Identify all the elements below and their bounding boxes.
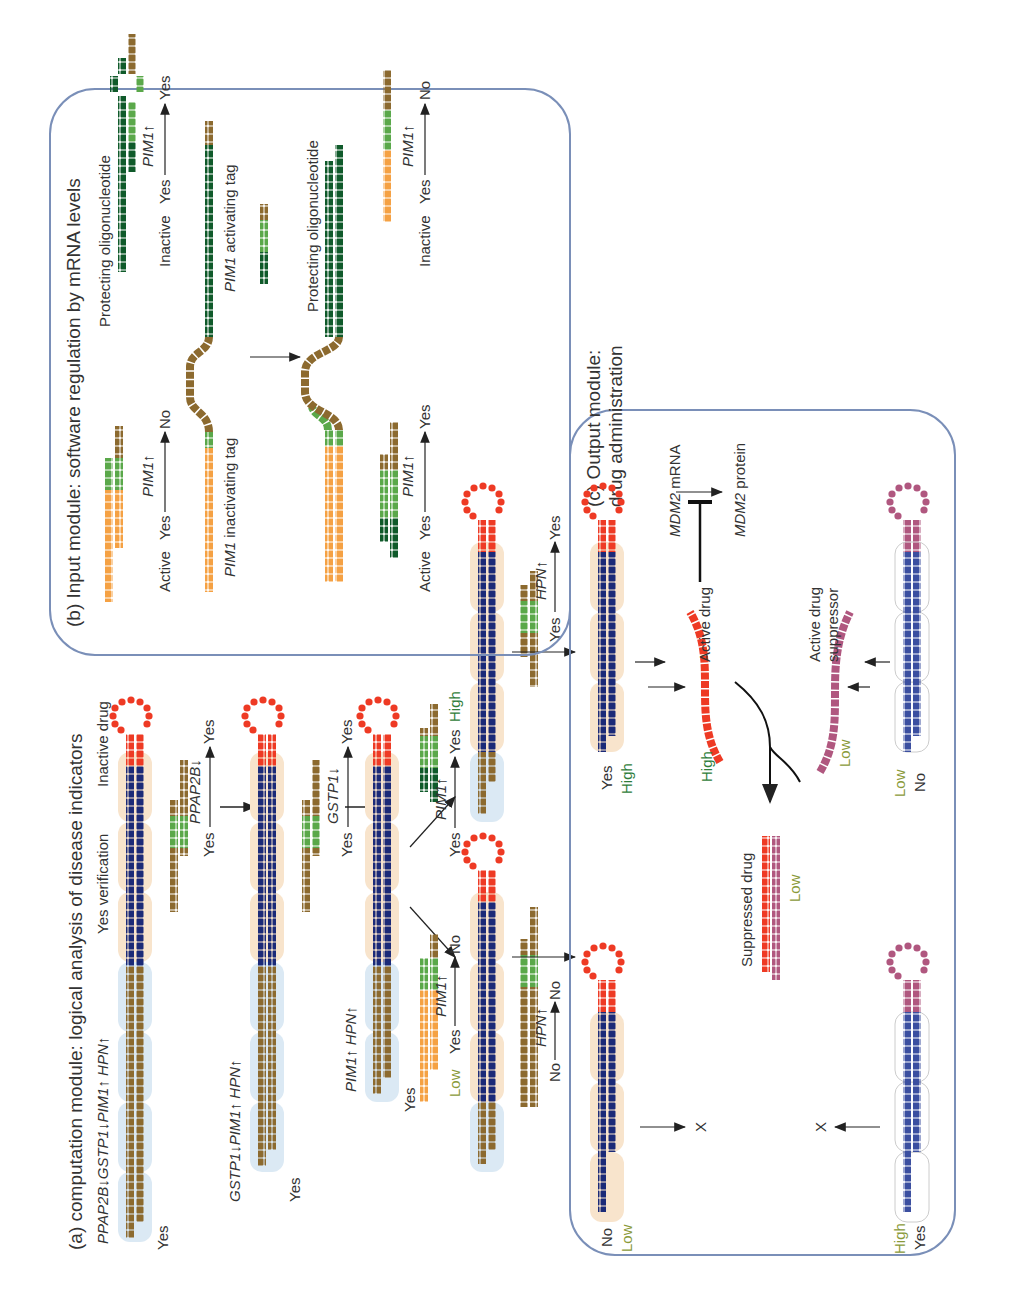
suppressor-label-1: Active drug [806, 587, 823, 662]
panel-a-title: (a) computation module: logical analysis… [65, 734, 86, 1250]
mdm2-mrna-rest: mRNA [666, 444, 683, 492]
b-protecting-1: Protecting oligonucleotide [96, 155, 113, 327]
suppressor-gate-yes [886, 942, 929, 1222]
c-left-bottom-level: Low [618, 1224, 635, 1252]
b-active1-to: No [156, 410, 173, 429]
b-active2-gene: PIM1↑ [399, 454, 416, 497]
b-active2-from: Yes [416, 516, 433, 540]
mdm2-protein-label: MDM2 protein [731, 443, 748, 537]
branch-low-gene: PIM1↑ [432, 974, 449, 1017]
step2-trans-to: Yes [338, 720, 355, 744]
step2-state: Yes [286, 1178, 303, 1202]
step3-state: Yes [401, 1088, 418, 1112]
activating-tag-gene: PIM1 [221, 257, 238, 292]
step4-high-gene: HPN↑ [532, 561, 549, 600]
small-free-strand [260, 204, 268, 284]
suppressor-label-2: suppressor [824, 588, 841, 662]
b-active1-state: Active [156, 551, 173, 592]
output-gate-yes [581, 482, 624, 752]
mdm2-protein-rest: protein [731, 443, 748, 493]
gstp1-input-strands [302, 760, 320, 912]
step1-state: Yes [154, 1226, 171, 1250]
b-inactive2-to: No [416, 81, 433, 100]
branch-high-from: Yes [446, 833, 463, 857]
inactivating-tag-gene: PIM1 [221, 542, 238, 577]
active-strand-2 [380, 422, 398, 558]
step1-trans-to: Yes [200, 720, 217, 744]
b-active2-to: Yes [416, 405, 433, 429]
active-drug-label: Active drug [696, 587, 713, 662]
b-protecting-2: Protecting oligonucleotide [304, 140, 321, 312]
converge-curve-bottom [770, 747, 800, 782]
step3-genes: PIM1↑ HPN↑ [342, 1006, 359, 1092]
c-left-top-state: Yes [598, 766, 615, 790]
b-inactive1-gene: PIM1↑ [139, 124, 156, 167]
step1-trans-gene: PPAP2B↓ [186, 759, 203, 824]
suppressor-level: Low [836, 739, 853, 767]
step1-trans-from: Yes [200, 833, 217, 857]
activating-tag-rest: activating tag [221, 164, 238, 257]
suppressor-gate-no [886, 482, 929, 752]
branch-low-from: Yes [446, 1030, 463, 1054]
active-drug-level: High [698, 751, 715, 782]
gate-step4-high [461, 482, 504, 822]
b-activating-tag: PIM1 activating tag [221, 164, 238, 292]
output-gate-no [581, 942, 624, 1222]
branch-low-to: No [446, 935, 463, 954]
b-active1-from: Yes [156, 516, 173, 540]
step4-low-to: No [546, 981, 563, 1000]
panel-b-title: (b) Input module: software regulation by… [63, 178, 84, 627]
step1-genes: PPAP2B↓GSTP1↓PIM1↑ HPN↑ [94, 1037, 111, 1244]
step2-trans-gene: GSTP1↓ [324, 767, 341, 824]
b-inactive1-from: Yes [156, 180, 173, 204]
c-left-top-level: High [618, 763, 635, 794]
panel-c-output-module: (c) Output module: drug administration Y… [570, 345, 955, 1255]
suppressed-drug-magenta [772, 836, 780, 980]
inactivating-tag-rest: inactivating tag [221, 438, 238, 542]
diagram-canvas: (a) computation module: logical analysis… [0, 0, 1009, 1302]
gate-step1 [109, 696, 152, 1242]
branch-high-gene: PIM1↑ [432, 777, 449, 820]
inactive-strand-2 [383, 70, 391, 222]
step4-low-gene: HPN↑ [532, 1008, 549, 1047]
suppressed-drug-level: Low [786, 874, 803, 902]
b-inactive2-state: Inactive [416, 215, 433, 267]
figure-stage: (a) computation module: logical analysis… [0, 0, 1009, 1302]
step2-trans-from: Yes [338, 833, 355, 857]
pim1-low-strands [420, 934, 438, 1102]
yes-verification-label: Yes verification [94, 834, 111, 934]
suppressed-drug-label: Suppressed drug [738, 853, 755, 967]
blocked-x-top: X [692, 1122, 709, 1132]
b-inactive2-gene: PIM1↑ [399, 124, 416, 167]
gate-step3 [356, 696, 399, 1102]
gate-step4-low [461, 832, 504, 1172]
b-active2-state: Active [416, 551, 433, 592]
active-strand-1 [105, 426, 123, 602]
b-inactive1-to: Yes [156, 76, 173, 100]
step4-high-to: Yes [546, 516, 563, 540]
branch-high-level: High [446, 691, 463, 722]
pim1-inactivating-tag-strand [190, 121, 213, 592]
c-right-bottom-state: Yes [911, 1226, 928, 1250]
converge-curve-top [735, 682, 770, 747]
mdm2-mrna-label: MDM2 mRNA [666, 444, 683, 537]
c-left-bottom-state: No [598, 1228, 615, 1247]
step4-low-from: No [546, 1063, 563, 1082]
b-inactive2-from: Yes [416, 180, 433, 204]
branch-low-level: Low [446, 1069, 463, 1097]
c-right-top-level: Low [891, 769, 908, 797]
mdm2-mrna-gene: MDM2 [666, 492, 683, 537]
rotated-figure: (a) computation module: logical analysis… [0, 0, 1009, 1302]
panel-c-title-line2: drug administration [605, 345, 626, 507]
inactive-drug-label: Inactive drug [94, 701, 111, 787]
step2-genes: GSTP1↓PIM1↑ HPN↑ [226, 1059, 243, 1202]
c-right-top-state: No [911, 773, 928, 792]
suppressed-drug-red [762, 836, 770, 972]
blocked-x-bottom: X [812, 1122, 829, 1132]
b-inactive1-state: Inactive [156, 215, 173, 267]
gate-step2 [241, 696, 284, 1172]
panel-a-computation-module: (a) computation module: logical analysis… [65, 482, 575, 1250]
b-inactivating-tag: PIM1 inactivating tag [221, 438, 238, 577]
b-active1-gene: PIM1↑ [139, 454, 156, 497]
branch-high-to: Yes [446, 730, 463, 754]
